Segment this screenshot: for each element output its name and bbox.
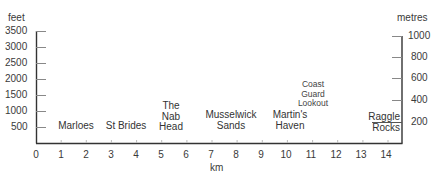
place-martins-haven: Martin's Haven: [273, 110, 308, 131]
x-tick-8: 8: [233, 150, 239, 160]
right-axis-unit: metres: [397, 12, 428, 23]
x-tick-14: 14: [380, 150, 391, 160]
x-tick-7: 7: [208, 150, 214, 160]
left-axis-ticks: [36, 32, 46, 128]
right-tick-400: 400: [411, 95, 428, 105]
x-tick-0: 0: [33, 150, 39, 160]
place-st-brides: St Brides: [106, 121, 147, 132]
x-tick-9: 9: [258, 150, 264, 160]
x-tick-12: 12: [330, 150, 341, 160]
x-tick-5: 5: [158, 150, 164, 160]
right-tick-800: 800: [411, 52, 428, 62]
right-tick-1000: 1000: [408, 31, 430, 41]
x-tick-4: 4: [133, 150, 139, 160]
left-axis-unit: feet: [8, 12, 25, 23]
x-tick-11: 11: [306, 150, 316, 160]
x-tick-10: 10: [280, 150, 291, 160]
right-tick-200: 200: [411, 117, 428, 127]
left-tick-3000: 3000: [5, 42, 27, 52]
x-tick-2: 2: [83, 150, 89, 160]
x-tick-1: 1: [58, 150, 64, 160]
right-axis-ticks: [392, 37, 402, 101]
left-tick-1000: 1000: [5, 106, 27, 116]
place-the-nab-head: The Nab Head: [159, 101, 183, 133]
chart-axes: [0, 0, 436, 177]
x-axis-unit: km: [210, 162, 223, 173]
place-musselwick-sands: Musselwick Sands: [205, 110, 256, 131]
left-tick-2500: 2500: [5, 58, 27, 68]
left-tick-1500: 1500: [5, 90, 27, 100]
place-raggle-rocks: Raggle Rocks: [368, 112, 400, 133]
left-tick-2000: 2000: [5, 74, 27, 84]
x-axis-ticks: [61, 140, 388, 143]
x-tick-6: 6: [183, 150, 189, 160]
right-tick-600: 600: [411, 73, 428, 83]
place-coast-guard-lookout: Coast Guard Lookout: [298, 80, 328, 109]
place-marloes: Marloes: [58, 121, 94, 132]
left-tick-3500: 3500: [5, 26, 27, 36]
x-tick-13: 13: [355, 150, 366, 160]
elevation-profile-chart: feet metres km 3500 3000 2500 2000 1500 …: [0, 0, 436, 177]
left-tick-500: 500: [11, 122, 28, 132]
x-tick-3: 3: [108, 150, 114, 160]
